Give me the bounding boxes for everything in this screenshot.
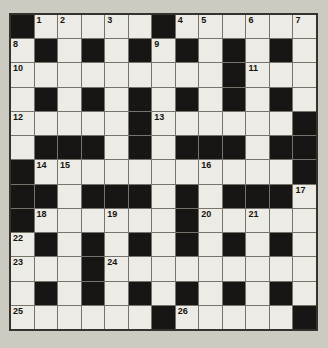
answer-cell-r11c12[interactable]: [270, 257, 293, 280]
answer-cell-r12c11[interactable]: [246, 282, 269, 305]
answer-cell-r10c7[interactable]: [152, 233, 175, 256]
answer-cell-r1c2[interactable]: 1: [35, 15, 58, 38]
answer-cell-r2c3[interactable]: [58, 39, 81, 62]
answer-cell-r11c2[interactable]: [35, 257, 58, 280]
answer-cell-r7c9[interactable]: 16: [199, 160, 222, 183]
answer-cell-r4c7[interactable]: [152, 88, 175, 111]
answer-cell-r9c2[interactable]: 18: [35, 209, 58, 232]
answer-cell-r5c11[interactable]: [246, 112, 269, 135]
answer-cell-r13c2[interactable]: [35, 306, 58, 329]
answer-cell-r3c12[interactable]: [270, 63, 293, 86]
answer-cell-r8c9[interactable]: [199, 185, 222, 208]
answer-cell-r8c3[interactable]: [58, 185, 81, 208]
answer-cell-r3c5[interactable]: [105, 63, 128, 86]
answer-cell-r7c5[interactable]: [105, 160, 128, 183]
answer-cell-r1c4[interactable]: [82, 15, 105, 38]
answer-cell-r6c1[interactable]: [11, 136, 34, 159]
answer-cell-r2c13[interactable]: [293, 39, 316, 62]
answer-cell-r3c9[interactable]: [199, 63, 222, 86]
answer-cell-r3c8[interactable]: [176, 63, 199, 86]
answer-cell-r5c7[interactable]: 13: [152, 112, 175, 135]
answer-cell-r2c9[interactable]: [199, 39, 222, 62]
answer-cell-r1c8[interactable]: 4: [176, 15, 199, 38]
answer-cell-r5c9[interactable]: [199, 112, 222, 135]
answer-cell-r1c13[interactable]: 7: [293, 15, 316, 38]
answer-cell-r9c9[interactable]: 20: [199, 209, 222, 232]
answer-cell-r1c5[interactable]: 3: [105, 15, 128, 38]
answer-cell-r9c5[interactable]: 19: [105, 209, 128, 232]
answer-cell-r5c2[interactable]: [35, 112, 58, 135]
answer-cell-r2c5[interactable]: [105, 39, 128, 62]
answer-cell-r6c5[interactable]: [105, 136, 128, 159]
answer-cell-r2c11[interactable]: [246, 39, 269, 62]
answer-cell-r4c13[interactable]: [293, 88, 316, 111]
answer-cell-r4c5[interactable]: [105, 88, 128, 111]
answer-cell-r1c9[interactable]: 5: [199, 15, 222, 38]
answer-cell-r12c5[interactable]: [105, 282, 128, 305]
answer-cell-r12c1[interactable]: [11, 282, 34, 305]
answer-cell-r5c10[interactable]: [223, 112, 246, 135]
answer-cell-r3c1[interactable]: 10: [11, 63, 34, 86]
answer-cell-r9c3[interactable]: [58, 209, 81, 232]
answer-cell-r12c9[interactable]: [199, 282, 222, 305]
answer-cell-r5c12[interactable]: [270, 112, 293, 135]
answer-cell-r13c8[interactable]: 26: [176, 306, 199, 329]
answer-cell-r10c9[interactable]: [199, 233, 222, 256]
answer-cell-r11c1[interactable]: 23: [11, 257, 34, 280]
answer-cell-r5c3[interactable]: [58, 112, 81, 135]
answer-cell-r3c4[interactable]: [82, 63, 105, 86]
answer-cell-r7c7[interactable]: [152, 160, 175, 183]
answer-cell-r7c3[interactable]: 15: [58, 160, 81, 183]
answer-cell-r12c13[interactable]: [293, 282, 316, 305]
answer-cell-r1c6[interactable]: [129, 15, 152, 38]
answer-cell-r13c9[interactable]: [199, 306, 222, 329]
answer-cell-r5c4[interactable]: [82, 112, 105, 135]
answer-cell-r11c3[interactable]: [58, 257, 81, 280]
answer-cell-r3c7[interactable]: [152, 63, 175, 86]
answer-cell-r8c13[interactable]: 17: [293, 185, 316, 208]
answer-cell-r10c3[interactable]: [58, 233, 81, 256]
answer-cell-r11c9[interactable]: [199, 257, 222, 280]
answer-cell-r1c12[interactable]: [270, 15, 293, 38]
answer-cell-r9c7[interactable]: [152, 209, 175, 232]
answer-cell-r11c5[interactable]: 24: [105, 257, 128, 280]
answer-cell-r13c1[interactable]: 25: [11, 306, 34, 329]
answer-cell-r9c4[interactable]: [82, 209, 105, 232]
answer-cell-r13c5[interactable]: [105, 306, 128, 329]
answer-cell-r9c11[interactable]: 21: [246, 209, 269, 232]
answer-cell-r2c1[interactable]: 8: [11, 39, 34, 62]
answer-cell-r13c11[interactable]: [246, 306, 269, 329]
answer-cell-r13c4[interactable]: [82, 306, 105, 329]
answer-cell-r4c1[interactable]: [11, 88, 34, 111]
answer-cell-r11c8[interactable]: [176, 257, 199, 280]
answer-cell-r4c3[interactable]: [58, 88, 81, 111]
answer-cell-r8c7[interactable]: [152, 185, 175, 208]
answer-cell-r7c11[interactable]: [246, 160, 269, 183]
answer-cell-r3c3[interactable]: [58, 63, 81, 86]
answer-cell-r3c11[interactable]: 11: [246, 63, 269, 86]
answer-cell-r9c6[interactable]: [129, 209, 152, 232]
answer-cell-r10c1[interactable]: 22: [11, 233, 34, 256]
answer-cell-r1c3[interactable]: 2: [58, 15, 81, 38]
answer-cell-r6c11[interactable]: [246, 136, 269, 159]
answer-cell-r13c12[interactable]: [270, 306, 293, 329]
answer-cell-r10c11[interactable]: [246, 233, 269, 256]
answer-cell-r10c13[interactable]: [293, 233, 316, 256]
answer-cell-r11c13[interactable]: [293, 257, 316, 280]
answer-cell-r7c6[interactable]: [129, 160, 152, 183]
answer-cell-r4c9[interactable]: [199, 88, 222, 111]
answer-cell-r1c10[interactable]: [223, 15, 246, 38]
answer-cell-r5c5[interactable]: [105, 112, 128, 135]
answer-cell-r7c10[interactable]: [223, 160, 246, 183]
answer-cell-r13c3[interactable]: [58, 306, 81, 329]
answer-cell-r2c7[interactable]: 9: [152, 39, 175, 62]
answer-cell-r13c10[interactable]: [223, 306, 246, 329]
answer-cell-r11c6[interactable]: [129, 257, 152, 280]
answer-cell-r11c10[interactable]: [223, 257, 246, 280]
answer-cell-r9c10[interactable]: [223, 209, 246, 232]
answer-cell-r9c13[interactable]: [293, 209, 316, 232]
answer-cell-r4c11[interactable]: [246, 88, 269, 111]
answer-cell-r6c7[interactable]: [152, 136, 175, 159]
answer-cell-r3c13[interactable]: [293, 63, 316, 86]
answer-cell-r12c3[interactable]: [58, 282, 81, 305]
